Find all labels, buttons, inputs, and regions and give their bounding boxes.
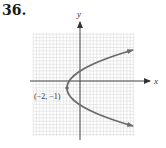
x-axis-label: x (153, 76, 158, 86)
parabola-graph: x y (−2, −1) (0, 0, 166, 148)
vertex-label: (−2, −1) (34, 92, 61, 101)
y-axis-label: y (76, 9, 81, 19)
grid (33, 33, 134, 136)
vertex-point (65, 86, 69, 90)
